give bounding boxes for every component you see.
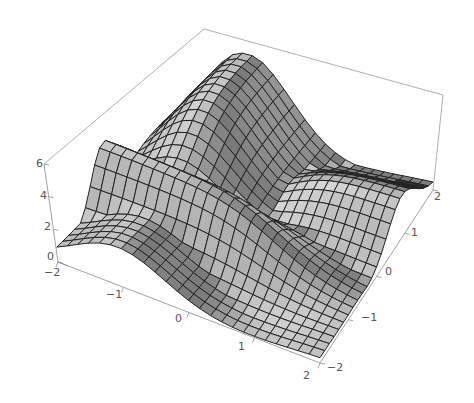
x-tick-label: 0 xyxy=(175,312,182,325)
z-tick-label: 6 xyxy=(36,157,43,170)
z-tick-mark xyxy=(53,229,58,230)
x-tick-label: −2 xyxy=(44,266,60,279)
y-tick-label: −1 xyxy=(361,311,377,324)
y-tick-mark xyxy=(320,363,325,364)
x-tick-mark xyxy=(318,363,320,368)
box-edge xyxy=(433,95,443,190)
y-tick-label: 0 xyxy=(385,265,392,278)
z-axis-line xyxy=(44,164,58,262)
x-tick-label: −1 xyxy=(106,288,122,301)
y-tick-label: 1 xyxy=(411,226,418,239)
x-tick-mark xyxy=(187,313,189,318)
y-tick-mark xyxy=(348,320,353,321)
z-tick-mark xyxy=(58,262,63,263)
z-tick-label: 4 xyxy=(40,189,47,202)
z-tick-label: 2 xyxy=(44,220,51,233)
y-tick-label: −2 xyxy=(327,361,343,374)
y-tick-label: 2 xyxy=(434,190,441,203)
y-tick-mark xyxy=(405,233,410,234)
z-tick-mark xyxy=(49,197,54,198)
z-tick-mark xyxy=(44,164,49,165)
x-tick-mark xyxy=(253,338,255,343)
z-tick-label: 0 xyxy=(47,250,54,263)
surface-plot: 6420−2−1012−2−1012 xyxy=(0,0,474,403)
x-tick-label: 2 xyxy=(303,369,310,382)
y-tick-mark xyxy=(377,277,382,278)
x-tick-label: 1 xyxy=(238,340,245,353)
